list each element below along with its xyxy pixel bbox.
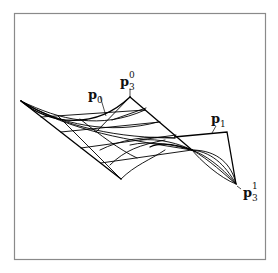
- label-p3-1-sub: 3: [252, 193, 258, 203]
- label-p3-1: p 3 1: [243, 181, 258, 203]
- label-p3-0: p 3 0: [120, 70, 135, 92]
- label-p0-sub: 0: [97, 95, 103, 105]
- label-p1: p 1: [211, 111, 226, 129]
- label-p3-0-sup: 0: [129, 70, 135, 80]
- label-p3-1-base: p: [243, 185, 252, 200]
- label-p3-1-sup: 1: [252, 181, 258, 191]
- label-p0: p 0: [88, 87, 103, 105]
- label-p1-base: p: [211, 111, 220, 126]
- label-p0-base: p: [88, 87, 97, 102]
- label-p3-0-base: p: [120, 74, 129, 89]
- label-p1-sub: 1: [220, 119, 226, 129]
- bezier-surface-diagram: p 0 p 3 0 p 1 p 3 1: [0, 0, 278, 273]
- surface-mesh: [21, 97, 236, 184]
- label-p3-0-sub: 3: [129, 82, 135, 92]
